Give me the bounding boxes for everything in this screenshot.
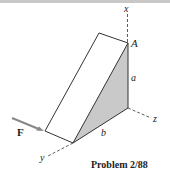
force-label: F	[17, 126, 24, 138]
x-axis-label: x	[123, 3, 129, 14]
y-axis-label: y	[39, 152, 45, 163]
z-axis-line	[128, 108, 151, 118]
top-edge	[99, 33, 128, 43]
wedge-diagram: x A a z b y F Problem 2/88	[0, 0, 170, 170]
point-A-label: A	[130, 37, 138, 49]
bottom-front-edge	[45, 131, 73, 143]
y-axis-line	[48, 143, 73, 156]
dim-b-label: b	[101, 127, 106, 138]
dim-a-label: a	[131, 72, 136, 83]
figure-caption: Problem 2/88	[91, 159, 148, 170]
z-axis-label: z	[152, 113, 157, 124]
